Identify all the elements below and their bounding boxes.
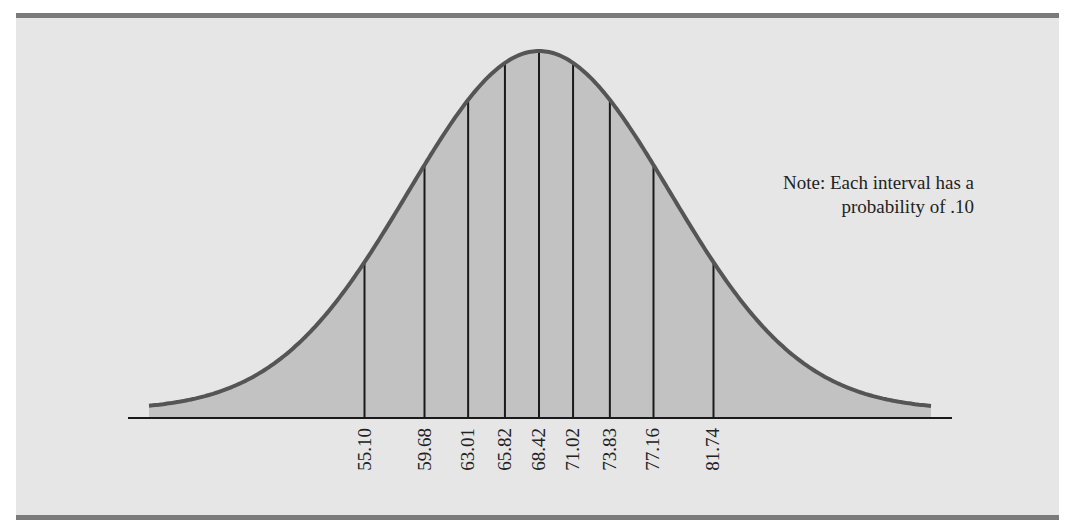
tick-label: 77.16 <box>642 428 663 471</box>
tick-label: 59.68 <box>414 428 435 471</box>
tick-label: 63.01 <box>457 428 478 471</box>
tick-labels: 55.1059.6863.0165.8268.4271.0273.8377.16… <box>354 428 724 471</box>
tick-label: 68.42 <box>528 428 549 471</box>
tick-label: 73.83 <box>599 428 620 471</box>
note-annotation: Note: Each interval has a probability of… <box>712 171 974 219</box>
tick-label: 71.02 <box>562 428 583 471</box>
tick-label: 55.10 <box>354 428 375 471</box>
note-line-1: Note: Each interval has a <box>712 171 974 195</box>
note-line-2: probability of .10 <box>712 195 974 219</box>
tick-label: 65.82 <box>494 428 515 471</box>
tick-label: 81.74 <box>702 428 723 471</box>
normal-distribution-chart: 55.1059.6863.0165.8268.4271.0273.8377.16… <box>0 0 1078 532</box>
